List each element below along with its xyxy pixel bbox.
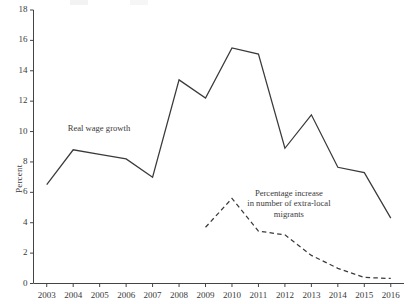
y-tick-label: 6 bbox=[6, 186, 28, 196]
annotation-real-wage-growth: Real wage growth bbox=[68, 123, 131, 134]
y-tick-label: 12 bbox=[6, 95, 28, 105]
y-tick-label: 16 bbox=[6, 34, 28, 44]
annotation-line-2: in number of extra-local bbox=[235, 198, 343, 209]
chart-container: Percent 024681012141618 2003200420052006… bbox=[0, 0, 409, 304]
axis-lines bbox=[34, 10, 405, 284]
y-tick-label: 8 bbox=[6, 156, 28, 166]
y-tick-label: 4 bbox=[6, 217, 28, 227]
y-tick-label: 0 bbox=[6, 278, 28, 288]
annotation-line-3: migrants bbox=[235, 209, 343, 220]
x-tick-label: 2016 bbox=[376, 290, 406, 300]
x-axis-ticks bbox=[47, 284, 391, 288]
annotation-extra-local-migrants: Percentage increase in number of extra-l… bbox=[235, 188, 343, 220]
y-axis-ticks bbox=[30, 10, 34, 284]
y-tick-label: 18 bbox=[6, 4, 28, 14]
annotation-line-1: Percentage increase bbox=[235, 188, 343, 199]
y-tick-label: 14 bbox=[6, 65, 28, 75]
line-chart-plot bbox=[0, 0, 409, 304]
y-tick-label: 2 bbox=[6, 247, 28, 257]
y-tick-label: 10 bbox=[6, 126, 28, 136]
